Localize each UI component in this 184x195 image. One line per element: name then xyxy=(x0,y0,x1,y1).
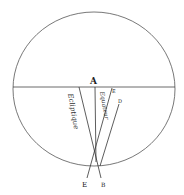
label-D: D xyxy=(118,98,122,104)
geometric-figure: A E D E B Ecliptique Equateur xyxy=(0,0,184,195)
label-E-top: E xyxy=(112,88,116,94)
label-A: A xyxy=(89,76,98,86)
annotation-equator: Equateur xyxy=(98,90,111,121)
annotation-ecliptic: Ecliptique xyxy=(66,92,80,130)
label-E-bottom: E xyxy=(82,181,87,189)
label-B: B xyxy=(101,181,106,188)
diagram-canvas: A E D E B Ecliptique Equateur xyxy=(0,0,184,195)
circle xyxy=(13,12,175,166)
vertical-line-A xyxy=(95,87,96,162)
ecliptic-line xyxy=(79,87,101,178)
